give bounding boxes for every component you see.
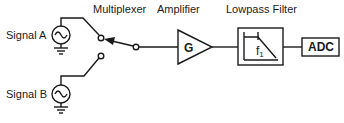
signal-a-wire [61,18,99,35]
switch-terminal-b [98,53,104,59]
signal-b-wire [61,58,99,85]
lowpass-filter-block: f1 [238,28,283,65]
switch-common-terminal [133,44,139,50]
multiplexer-label: Multiplexer [93,3,147,15]
amplifier-label: Amplifier [157,3,200,15]
amplifier-block: G [178,30,212,64]
adc-block: ADC [302,38,339,56]
cutoff-frequency-symbol: f1 [256,44,264,59]
signal-a-label: Signal A [6,29,47,41]
amplifier-gain-symbol: G [184,41,193,55]
adc-label: ADC [308,40,334,54]
lowpass-filter-label: Lowpass Filter [226,3,297,15]
switch-arrow-icon [104,37,115,45]
signal-b-label: Signal B [6,88,47,100]
multiplexer-switch [98,35,139,59]
switch-terminal-a [98,35,104,41]
signal-chain-diagram: Signal A Signal B Multiplexer Amplifier … [0,0,344,123]
signal-b-source-icon [52,85,70,113]
signal-a-source-icon [52,26,70,54]
switch-arm [112,41,133,46]
